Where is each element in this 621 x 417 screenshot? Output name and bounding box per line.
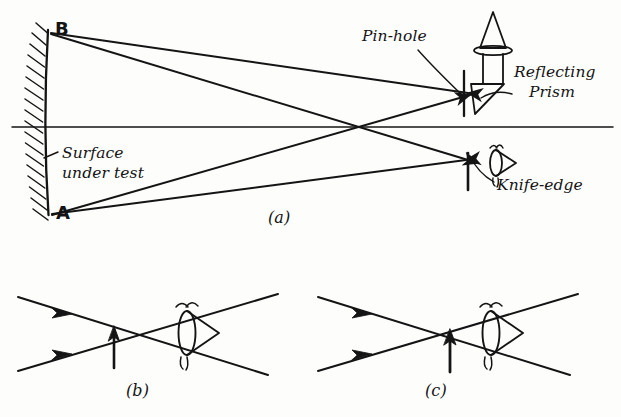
- panel-c-detail: [318, 294, 578, 375]
- point-b-label: B: [55, 19, 69, 38]
- lamp-tube: [483, 54, 503, 84]
- knife-edge-label: Knife-edge: [497, 177, 583, 194]
- reflecting-prism-label-line2: Prism: [529, 84, 575, 101]
- panel-a-caption: (a): [268, 209, 290, 226]
- surface-under-test-label-line2: under test: [62, 165, 144, 182]
- surface-under-test-label-line1: Surface: [62, 145, 124, 162]
- reflecting-prism-glyph: [471, 84, 504, 114]
- reflecting-prism-leader-line: [481, 92, 512, 98]
- panel-b-caption: (b): [126, 382, 149, 399]
- reflecting-prism-label-line1: Reflecting: [514, 64, 595, 81]
- pin-hole-label: Pin-hole: [362, 28, 427, 45]
- panel-b-detail: [18, 294, 278, 375]
- mirror-surface-under-test: [45, 30, 48, 215]
- point-a-label: A: [56, 203, 70, 222]
- panel-c-caption: (c): [425, 382, 447, 399]
- figure-page: Pin-hole Reflecting Prism Knife-edge Sur…: [0, 0, 621, 417]
- lamp-cone: [480, 12, 506, 48]
